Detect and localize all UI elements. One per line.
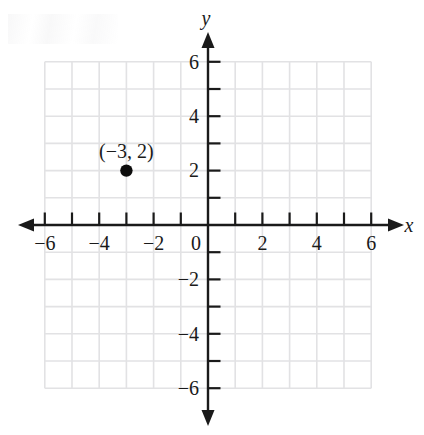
y-tick-label--2: −2 — [178, 268, 199, 290]
y-axis-down-arrowhead — [202, 410, 215, 426]
x-tick-label--2: −2 — [143, 232, 164, 254]
x-tick-label--4: −4 — [89, 232, 110, 254]
y-axis-up-arrowhead — [202, 32, 215, 48]
coordinate-plane-figure: −6 −4 −2 0 2 4 6 6 4 2 −2 −4 −6 x y (−3,… — [0, 0, 424, 435]
x-axis-name: x — [404, 214, 414, 236]
y-tick-label--6: −6 — [178, 377, 199, 399]
x-tick-label-0: 0 — [191, 232, 201, 254]
x-tick-label-2: 2 — [257, 232, 267, 254]
y-axis-name: y — [200, 7, 211, 30]
x-axis-left-arrowhead — [18, 219, 34, 232]
x-axis-right-arrowhead — [388, 219, 404, 232]
x-tick-label-6: 6 — [366, 232, 376, 254]
coordinate-plane-svg: −6 −4 −2 0 2 4 6 6 4 2 −2 −4 −6 x y (−3,… — [0, 0, 424, 435]
y-tick-label-2: 2 — [189, 159, 199, 181]
x-tick-label-4: 4 — [312, 232, 322, 254]
x-tick-label--6: −6 — [34, 232, 55, 254]
axis-arrowheads — [18, 32, 404, 426]
y-tick-label-6: 6 — [189, 51, 199, 73]
y-tick-label-4: 4 — [189, 105, 199, 127]
y-tick-label--4: −4 — [178, 323, 199, 345]
plotted-point-label: (−3, 2) — [99, 140, 154, 163]
plotted-point-marker — [120, 164, 132, 176]
x-axis-tick-labels: −6 −4 −2 0 2 4 6 — [34, 232, 376, 254]
